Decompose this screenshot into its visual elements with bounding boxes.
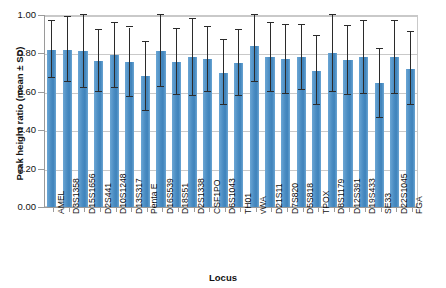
x-axis-tick-label: AMEL: [57, 191, 66, 214]
error-bar: [192, 19, 193, 96]
error-bar-cap-lower: [376, 117, 383, 118]
x-axis-tick-label: D18S51: [181, 183, 190, 214]
x-axis-tick: [84, 208, 85, 212]
error-bar-cap-upper: [344, 25, 351, 26]
x-axis-tick: [53, 208, 54, 212]
error-bar: [145, 42, 146, 111]
error-bar-cap-upper: [313, 35, 320, 36]
error-bar: [238, 30, 239, 95]
error-bar: [67, 17, 68, 82]
x-axis-tick: [396, 208, 397, 212]
y-axis-tick: [38, 169, 44, 170]
x-axis-tick: [162, 208, 163, 212]
x-axis-tick-label: Penta E: [150, 183, 159, 214]
error-bar-cap-lower: [344, 94, 351, 95]
error-bar-cap-lower: [251, 81, 258, 82]
error-bar-cap-upper: [235, 29, 242, 30]
error-bar-cap-lower: [267, 91, 274, 92]
error-bar-cap-lower: [95, 91, 102, 92]
x-axis-tick: [100, 208, 101, 212]
error-bar-cap-lower: [360, 93, 367, 94]
error-bar-cap-lower: [282, 93, 289, 94]
y-axis-tick: [38, 130, 44, 131]
error-bar-cap-upper: [126, 26, 133, 27]
error-bar-cap-upper: [189, 18, 196, 19]
error-bar-cap-lower: [189, 95, 196, 96]
x-axis-tick: [349, 208, 350, 212]
error-bar-cap-lower: [235, 95, 242, 96]
x-axis-tick: [334, 208, 335, 212]
x-axis-tick-label: TPOX: [322, 191, 331, 214]
error-bar-cap-lower: [157, 86, 164, 87]
x-axis-tick: [240, 208, 241, 212]
bar-group: [264, 15, 280, 207]
x-axis-tick-label: D8S1179: [337, 179, 346, 214]
error-bar-cap-upper: [360, 20, 367, 21]
x-axis-tick-label: CSF1PO: [213, 180, 222, 214]
x-axis-tick-label: SE33: [384, 193, 393, 214]
y-axis-tick: [38, 15, 44, 16]
y-axis-tick-label: 1.00: [2, 10, 36, 19]
bar-group: [248, 15, 264, 207]
x-axis-tick-label: D6S1043: [228, 178, 237, 214]
error-bar: [98, 30, 99, 91]
error-bar-cap-upper: [173, 28, 180, 29]
y-axis-tick: [38, 53, 44, 54]
x-axis-tick: [225, 208, 226, 212]
error-bar: [332, 15, 333, 92]
x-axis-tick-label: vWA: [259, 196, 268, 214]
error-bar-cap-lower: [142, 110, 149, 111]
error-bar-cap-lower: [391, 93, 398, 94]
x-axis-tick-label: TH01: [244, 193, 253, 214]
error-bar-cap-upper: [220, 39, 227, 40]
x-axis-tick: [69, 208, 70, 212]
x-axis-tick-label: D21S11: [275, 184, 284, 214]
x-axis-tick: [318, 208, 319, 212]
x-axis-tick: [381, 208, 382, 212]
error-bar-cap-lower: [64, 81, 71, 82]
error-bar-cap-upper: [142, 41, 149, 42]
error-bar: [347, 26, 348, 95]
x-axis-tick: [287, 208, 288, 212]
x-axis-tick-label: D10S1248: [119, 173, 128, 214]
error-bar-cap-upper: [111, 22, 118, 23]
error-bar-cap-lower: [126, 96, 133, 97]
x-axis-tick: [147, 208, 148, 212]
error-bar: [410, 32, 411, 105]
x-axis-tick-label: D7S820: [291, 183, 300, 214]
x-axis-tick: [412, 208, 413, 212]
error-bar-cap-upper: [391, 20, 398, 21]
x-axis-tick-label: D13S317: [135, 178, 144, 214]
error-bar: [129, 28, 130, 97]
y-axis-tick-label: 0.00: [2, 202, 36, 211]
error-bar: [51, 21, 52, 79]
error-bar: [223, 40, 224, 105]
error-bar: [285, 25, 286, 94]
error-bar-cap-upper: [251, 14, 258, 15]
error-bar: [114, 23, 115, 88]
error-bar: [254, 15, 255, 82]
bar-group: [310, 15, 326, 207]
error-bar: [207, 27, 208, 92]
x-axis-tick-label: D16S539: [166, 178, 175, 214]
x-axis-tick: [271, 208, 272, 212]
error-bar-cap-upper: [298, 24, 305, 25]
x-axis-tick: [194, 208, 195, 212]
bar-group: [46, 15, 62, 207]
x-axis-tick-label: D15S1656: [88, 173, 97, 214]
x-axis-title: Locus: [0, 272, 446, 283]
error-bar: [301, 25, 302, 90]
peak-height-ratio-bar-chart: 1.000.800.600.400.200.00 Peak height rat…: [0, 0, 446, 288]
error-bar-cap-lower: [407, 104, 414, 105]
error-bar: [270, 23, 271, 92]
error-bar-cap-lower: [80, 87, 87, 88]
error-bar: [160, 15, 161, 87]
error-bar-cap-upper: [267, 22, 274, 23]
error-bar-cap-upper: [329, 14, 336, 15]
x-axis-tick: [209, 208, 210, 212]
x-axis-tick-label: D3S1358: [72, 178, 81, 214]
error-bar-cap-upper: [282, 24, 289, 25]
x-axis-tick-label: D2S441: [104, 183, 113, 214]
error-bar-cap-upper: [80, 14, 87, 15]
error-bar-cap-lower: [220, 104, 227, 105]
